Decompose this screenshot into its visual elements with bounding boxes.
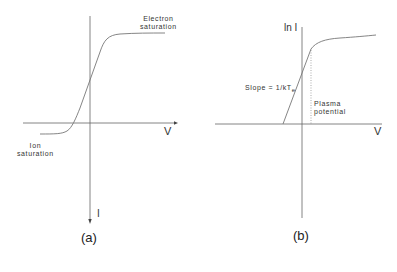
panel-a-axes	[23, 16, 178, 224]
panel-a-iv-curve	[40, 33, 165, 134]
panel-b-caption: (b)	[293, 228, 309, 243]
plasma-potential-label: Plasma potential	[314, 100, 346, 116]
diagram-canvas	[0, 0, 397, 272]
panel-a-y-axis-label: I	[97, 208, 100, 219]
panel-b-x-axis-label: V	[374, 125, 381, 137]
panel-b-axes	[215, 27, 382, 218]
slope-subscript: e	[292, 87, 296, 93]
panel-b-y-axis-label: ln I	[284, 22, 297, 33]
electron-saturation-label: Electron saturation	[140, 15, 177, 31]
ion-saturation-label: Ion saturation	[17, 142, 54, 158]
y-axis-arrow-icon	[88, 219, 91, 224]
slope-label: Slope = 1/kTe	[245, 84, 296, 94]
panel-a-x-axis-label: V	[164, 125, 171, 137]
panel-a-caption: (a)	[81, 230, 97, 245]
x-axis-arrow-icon	[174, 121, 178, 124]
